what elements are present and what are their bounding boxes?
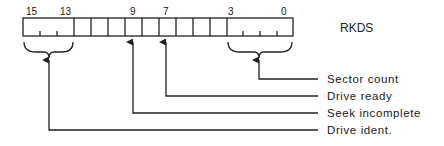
field-label-sector-count: Sector count xyxy=(327,73,399,85)
bit-label-15: 15 xyxy=(26,6,38,17)
register-diagram: 15 13 9 7 3 0 RKDS xyxy=(0,0,444,146)
bit-label-7: 7 xyxy=(163,6,169,17)
bit-label-3: 3 xyxy=(228,6,234,17)
brace-sector-count xyxy=(228,42,292,58)
field-label-seek-incomplete: Seek incomplete xyxy=(327,107,421,119)
brace-drive-ident xyxy=(24,42,73,58)
leader-drive-ident xyxy=(49,60,318,130)
register-box xyxy=(23,18,293,36)
bit-label-13: 13 xyxy=(60,6,72,17)
register-name: RKDS xyxy=(340,21,373,35)
bit-labels: 15 13 9 7 3 0 xyxy=(26,6,287,17)
bit-label-9: 9 xyxy=(130,6,136,17)
leader-seek-incomplete xyxy=(133,42,318,113)
leader-drive-ready xyxy=(166,42,318,96)
bit-label-0: 0 xyxy=(281,6,287,17)
field-label-drive-ident: Drive ident. xyxy=(327,124,392,136)
field-label-drive-ready: Drive ready xyxy=(327,90,392,102)
leader-sector-count xyxy=(259,60,318,79)
leader-lines xyxy=(49,42,318,130)
